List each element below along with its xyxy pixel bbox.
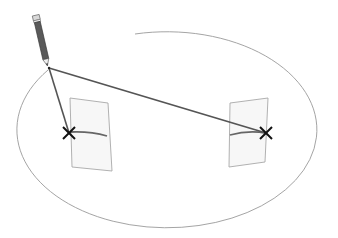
line-to-left-x — [49, 68, 69, 133]
pencil-icon — [32, 14, 51, 66]
ellipse-arc — [17, 32, 317, 228]
left-panel — [70, 98, 112, 171]
pencil-tip-point — [48, 67, 50, 69]
diagram-canvas — [0, 0, 338, 238]
diagram-svg — [0, 0, 338, 238]
